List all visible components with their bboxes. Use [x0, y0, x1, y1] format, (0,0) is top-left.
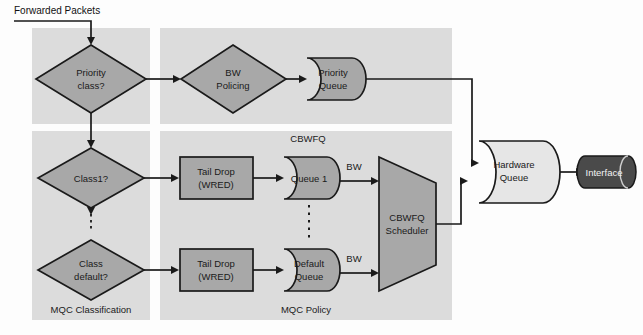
decision-priority-class-line2: class? — [78, 80, 105, 91]
interface-label: Interface — [586, 167, 623, 178]
forwarded-packets-label: Forwarded Packets — [14, 5, 100, 16]
bw-label-top: BW — [346, 161, 361, 172]
queue-priority-line2: Queue — [319, 80, 348, 91]
process-tail-drop-2-line1: Tail Drop — [197, 258, 235, 269]
figure-canvas: Forwarded Packets Priority class? BW Pol… — [0, 0, 643, 335]
process-tail-drop-2-line2: (WRED) — [198, 271, 233, 282]
queue-default-line2: Queue — [295, 271, 324, 282]
queue-1-line1: Queue 1 — [291, 173, 327, 184]
decision-priority-class-line1: Priority — [76, 67, 106, 78]
qos-flow-diagram: Forwarded Packets Priority class? BW Pol… — [0, 0, 643, 335]
queue-hardware-line1: Hardware — [493, 159, 534, 170]
arrowhead-priorityqueue-to-hardwarequeue — [471, 159, 479, 167]
queue-default-line1: Default — [294, 258, 324, 269]
process-tail-drop-1-line1: Tail Drop — [197, 166, 235, 177]
cbwfq-scheduler-line2: Scheduler — [386, 225, 429, 236]
decision-class1-line1: Class1? — [74, 173, 108, 184]
process-tail-drop-1-line2: (WRED) — [198, 179, 233, 190]
decision-class-default-line2: default? — [74, 271, 108, 282]
queue-priority-line1: Priority — [318, 67, 348, 78]
decision-bw-policing-line1: BW — [225, 67, 240, 78]
panel-mqc-classification-label: MQC Classification — [51, 304, 132, 315]
bw-label-bottom: BW — [346, 253, 361, 264]
queue-hardware-line2: Queue — [500, 172, 529, 183]
cbwfq-scheduler-line1: CBWFQ — [389, 212, 424, 223]
decision-bw-policing-line2: Policing — [216, 80, 249, 91]
decision-class-default-line1: Class — [79, 258, 103, 269]
cbwfq-label: CBWFQ — [290, 133, 325, 144]
arrowhead-scheduler-to-hardwarequeue — [460, 177, 468, 185]
panel-mqc-policy-label: MQC Policy — [281, 304, 331, 315]
